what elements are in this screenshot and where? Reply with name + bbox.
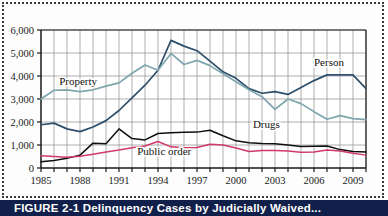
line-chart: 01,0002,0003,0004,0005,0006,000 19851988… [0, 0, 388, 200]
figure-caption-text: FIGURE 2-1 Delinquency Cases by Judicial… [14, 202, 321, 214]
y-tick-label: 6,000 [10, 25, 34, 36]
y-tick-label: 1,000 [10, 140, 34, 151]
x-tick-label: 1994 [148, 175, 170, 186]
x-tick-label: 2009 [343, 175, 364, 186]
series-label-person: Person [314, 56, 344, 68]
y-tick-label: 5,000 [10, 48, 34, 59]
series-label-property: Property [59, 75, 97, 87]
y-tick-label: 2,000 [10, 117, 34, 128]
x-tick-label: 1991 [109, 175, 130, 186]
x-tick-label: 2006 [304, 175, 325, 186]
x-tick-label: 2003 [265, 175, 286, 186]
y-tick-label: 0 [29, 163, 34, 174]
series-label-drugs: Drugs [253, 118, 280, 130]
y-axis-tick-labels: 01,0002,0003,0004,0005,0006,000 [10, 25, 34, 174]
x-tick-label: 1988 [70, 175, 91, 186]
figure-container: 01,0002,0003,0004,0005,0006,000 19851988… [0, 0, 388, 216]
x-tick-label: 1985 [31, 175, 52, 186]
x-tick-label: 1997 [187, 175, 208, 186]
x-axis-tick-labels: 198519881991199419972000200320062009 [31, 175, 364, 186]
x-tick-label: 2000 [226, 175, 247, 186]
y-tick-label: 4,000 [10, 71, 34, 82]
gridlines [41, 30, 366, 168]
series-label-public-order: Public order [137, 145, 191, 157]
figure-caption-bar: FIGURE 2-1 Delinquency Cases by Judicial… [0, 200, 388, 216]
chart-svg: 01,0002,0003,0004,0005,0006,000 19851988… [0, 0, 388, 200]
y-tick-label: 3,000 [10, 94, 34, 105]
